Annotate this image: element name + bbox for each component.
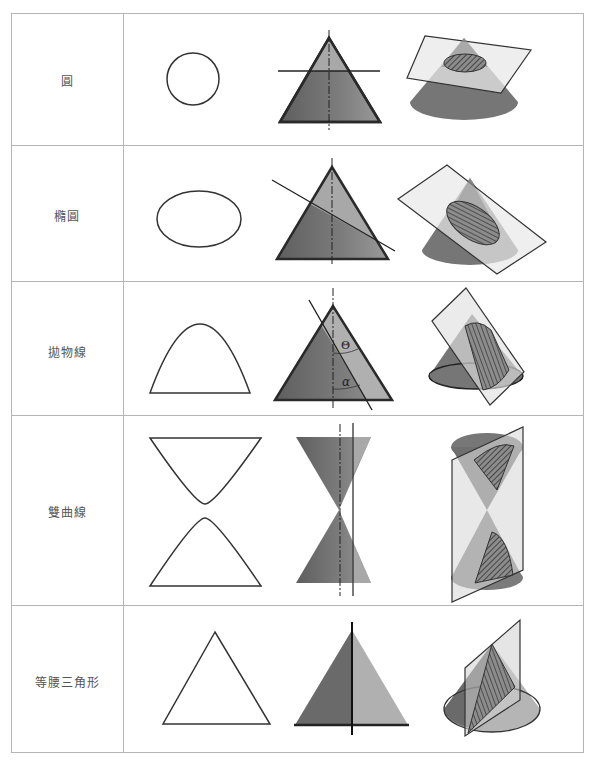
double-cone-3d [451,427,523,602]
angle-label-alpha: α [342,375,350,389]
row-isosceles [163,620,540,736]
cone-3d-ellipse [398,165,546,274]
cone-3d-circle [407,36,531,120]
curve-parabola [150,324,250,393]
row-ellipse [157,158,546,274]
cone-section-isosceles [294,622,409,735]
angle-label-theta: Θ [341,339,350,352]
cone-section-circle [278,30,380,130]
row-parabola: Θ α [150,288,524,410]
cone-3d-isosceles [444,620,540,736]
row-circle [167,30,531,130]
conic-sections-diagram: Θ α [0,0,599,765]
cone-3d-parabola [429,288,524,405]
curve-hyperbola-lower [150,518,261,586]
cone-section-ellipse [272,158,395,265]
double-cone-section [296,423,371,596]
curve-isosceles-triangle [163,632,270,724]
curve-circle [167,53,219,105]
cone-section-parabola: Θ α [275,288,392,410]
row-hyperbola [150,423,523,602]
curve-ellipse [157,191,241,247]
section-circle-hatched [444,54,486,72]
curve-hyperbola-upper [150,438,261,504]
